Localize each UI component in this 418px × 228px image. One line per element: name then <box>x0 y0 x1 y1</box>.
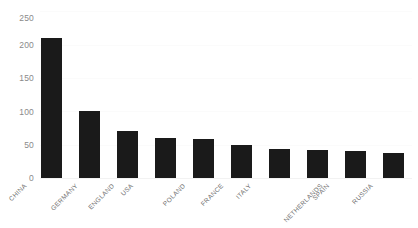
bar-netherlands <box>307 150 328 178</box>
bar-china <box>41 38 62 178</box>
bar-usa <box>155 138 176 178</box>
bar-spain <box>345 151 366 178</box>
bar-russia <box>383 153 404 178</box>
bar-italy <box>269 149 290 178</box>
bar-france <box>231 145 252 178</box>
bar-chart: 250 200 150 100 50 0 CHINA GERMANY ENGLA… <box>0 0 418 228</box>
bar-poland <box>193 139 214 178</box>
bar-germany <box>79 111 100 178</box>
bar-england <box>117 131 138 178</box>
